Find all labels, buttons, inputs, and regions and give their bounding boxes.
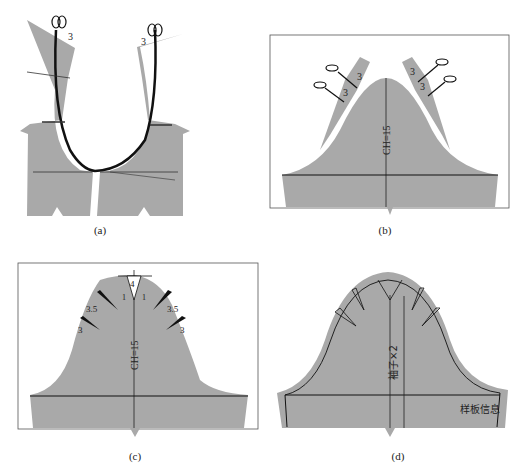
dart-label: 3 — [78, 325, 83, 335]
dart-label: 3 — [180, 325, 185, 335]
panel-d: 袖子×2 样板信息 (d) — [260, 230, 527, 476]
caption-c: (c) — [115, 450, 155, 462]
pattern-info-label: 样板信息 — [460, 403, 500, 415]
dart-label: 3.5 — [167, 304, 179, 314]
dart-label: 3.5 — [86, 304, 98, 314]
cap-height-label: CH=15 — [129, 340, 140, 370]
scissors-icon — [52, 16, 66, 28]
panel-a: 3 3 (a) — [0, 0, 260, 240]
slash-label: 3 — [68, 31, 73, 42]
dart-label: 1 — [142, 293, 146, 302]
sleeve-cap-slash-diagram: CH=15 3 3 3 3 — [260, 0, 527, 240]
slash-label: 3 — [343, 87, 348, 98]
dart-label: 4 — [130, 279, 135, 289]
sleeve-slash-diagram: 3 3 — [0, 0, 260, 240]
slash-label: 3 — [141, 36, 146, 47]
dart-label: 1 — [122, 293, 126, 302]
caption-d: (d) — [378, 450, 418, 462]
cap-height-label: CH=15 — [381, 125, 392, 155]
piece-label: 袖子×2 — [387, 345, 399, 380]
panel-b: CH=15 3 3 3 3 (b) — [260, 0, 527, 240]
slash-label: 3 — [357, 71, 362, 82]
panel-c: CH=15 4 3.5 3.5 3 3 1 1 (c) — [0, 230, 260, 476]
slash-label: 3 — [420, 81, 425, 92]
sleeve-cap-spread-diagram: CH=15 4 3.5 3.5 3 3 1 1 — [0, 230, 260, 476]
final-sleeve-pattern: 袖子×2 样板信息 — [260, 230, 527, 476]
slash-label: 3 — [410, 66, 415, 77]
